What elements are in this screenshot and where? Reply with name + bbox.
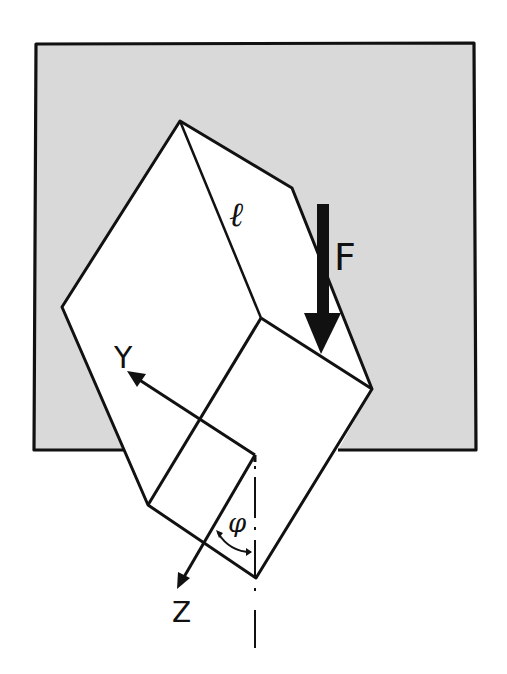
axis-z-label: Z xyxy=(172,596,191,629)
length-label: ℓ xyxy=(229,194,243,234)
angle-label: φ xyxy=(228,508,247,538)
block-in-slot-diagram: ℓ F Y Z φ xyxy=(0,0,507,674)
axis-y-label: Y xyxy=(113,340,133,375)
force-label: F xyxy=(334,235,356,279)
